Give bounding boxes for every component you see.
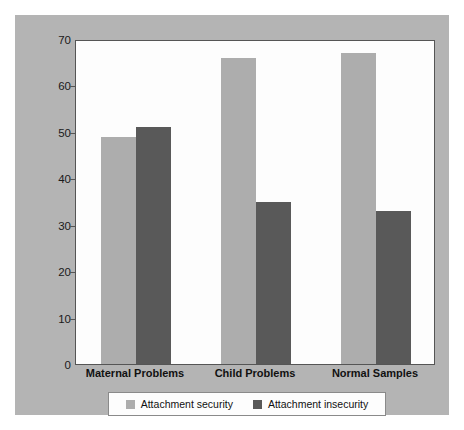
y-tick-label-10: 10 (35, 313, 71, 325)
y-tick-label-20: 20 (35, 266, 71, 278)
legend-entry-0[interactable]: Attachment security (126, 398, 233, 410)
y-tick-label-30: 30 (35, 220, 71, 232)
bar-maternal-problems-attachment-security (101, 137, 136, 365)
figure-panel: Percentage of Infants 010203040506070 Ma… (15, 15, 449, 415)
legend-swatch-insecurity (253, 400, 262, 409)
y-tick-label-50: 50 (35, 127, 71, 139)
plot-area (75, 40, 435, 365)
legend-entry-1[interactable]: Attachment insecurity (253, 398, 368, 410)
legend-label-1: Attachment insecurity (268, 398, 368, 410)
bar-child-problems-attachment-security (221, 58, 256, 364)
bars-layer (76, 41, 434, 364)
bar-maternal-problems-attachment-insecurity (136, 127, 171, 364)
chart-legend: Attachment securityAttachment insecurity (108, 392, 386, 416)
x-axis-label-1: Child Problems (215, 367, 296, 379)
bar-normal-samples-attachment-insecurity (376, 211, 411, 364)
legend-label-0: Attachment security (141, 398, 233, 410)
x-axis-label-0: Maternal Problems (86, 367, 184, 379)
y-tick-label-70: 70 (35, 34, 71, 46)
y-tick-label-60: 60 (35, 80, 71, 92)
x-axis-label-2: Normal Samples (332, 367, 418, 379)
bar-normal-samples-attachment-security (341, 53, 376, 364)
y-tick-label-0: 0 (35, 359, 71, 371)
legend-swatch-security (126, 400, 135, 409)
y-tick-label-40: 40 (35, 173, 71, 185)
bar-child-problems-attachment-insecurity (256, 202, 291, 365)
